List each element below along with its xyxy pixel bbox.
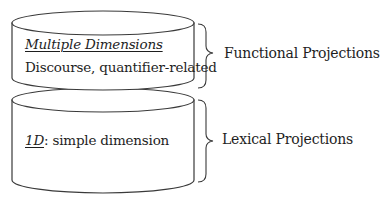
upper-layer-description: Discourse, quantifier-related <box>25 61 217 75</box>
lower-layer-text: 1D: simple dimension <box>25 134 169 148</box>
dimension-label: 1D <box>25 132 44 148</box>
upper-cylinder-top <box>12 11 194 35</box>
functional-projections-label: Functional Projections <box>224 46 380 60</box>
multiple-dimensions-title: Multiple Dimensions <box>25 38 163 52</box>
functional-brace-icon <box>198 24 213 88</box>
lower-cylinder-top <box>12 88 194 112</box>
lexical-brace-icon <box>198 100 213 182</box>
lexical-projections-label: Lexical Projections <box>222 132 353 146</box>
lower-layer-description: simple dimension <box>48 132 169 148</box>
